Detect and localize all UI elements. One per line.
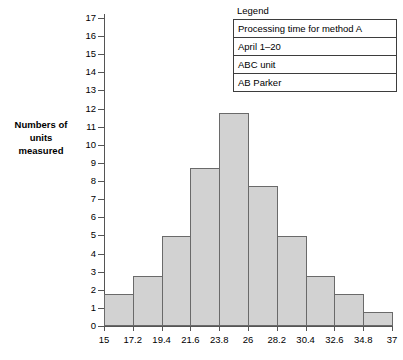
- legend-box: Processing time for method A April 1–20 …: [233, 19, 397, 92]
- y-axis-tick: [98, 199, 104, 200]
- legend-row: April 1–20: [234, 38, 396, 56]
- histogram-bar: [363, 312, 393, 326]
- y-axis-tick: [98, 36, 104, 37]
- histogram-bar: [248, 186, 278, 326]
- histogram-bar: [306, 276, 336, 326]
- y-axis-tick: [98, 254, 104, 255]
- y-axis-tick-label: 10: [76, 140, 96, 150]
- y-axis-tick: [98, 72, 104, 73]
- y-axis-line: [104, 14, 105, 327]
- x-axis-tick: [133, 326, 134, 331]
- legend-row: ABC unit: [234, 56, 396, 74]
- y-axis-tick-label: 17: [76, 13, 96, 23]
- y-axis-tick: [98, 18, 104, 19]
- y-axis-tick-label: 13: [76, 85, 96, 95]
- y-axis-tick-label: 0: [76, 321, 96, 331]
- y-axis-tick: [98, 163, 104, 164]
- y-axis-tick: [98, 145, 104, 146]
- y-axis-tick-label: 6: [76, 212, 96, 222]
- histogram-bar: [334, 294, 364, 326]
- y-axis-tick-label: 7: [76, 194, 96, 204]
- y-axis-tick-label: 2: [76, 285, 96, 295]
- histogram-bar: [162, 236, 192, 326]
- y-axis-tick-label: 3: [76, 267, 96, 277]
- y-axis-tick: [98, 290, 104, 291]
- y-axis-tick-label: 12: [76, 104, 96, 114]
- y-axis-tick-label: 8: [76, 176, 96, 186]
- y-axis-tick-label: 4: [76, 249, 96, 259]
- y-axis-tick: [98, 54, 104, 55]
- y-axis-tick: [98, 235, 104, 236]
- x-axis-tick: [104, 326, 105, 331]
- x-axis-tick: [190, 326, 191, 331]
- x-axis-tick: [306, 326, 307, 331]
- histogram-bar: [190, 168, 220, 326]
- histogram-bar: [104, 294, 134, 326]
- x-axis-tick: [277, 326, 278, 331]
- x-axis-tick: [334, 326, 335, 331]
- y-axis-title-line-2: units: [0, 131, 82, 144]
- histogram-figure: Numbers of units measured 01234567891011…: [0, 0, 403, 360]
- y-axis-tick: [98, 90, 104, 91]
- y-axis-tick: [98, 109, 104, 110]
- x-axis-tick: [392, 326, 393, 331]
- y-axis-tick-label: 5: [76, 230, 96, 240]
- legend-row: AB Parker: [234, 74, 396, 92]
- histogram-bar: [133, 276, 163, 326]
- x-axis-tick-label: 37: [372, 334, 403, 345]
- y-axis-tick: [98, 217, 104, 218]
- y-axis-tick: [98, 272, 104, 273]
- legend-row: Processing time for method A: [234, 20, 396, 38]
- y-axis-tick: [98, 127, 104, 128]
- legend: Legend Processing time for method A Apri…: [233, 5, 397, 92]
- x-axis-tick: [162, 326, 163, 331]
- y-axis-tick-label: 15: [76, 49, 96, 59]
- x-axis-tick: [363, 326, 364, 331]
- y-axis-title-line-1: Numbers of: [0, 118, 82, 131]
- x-axis-tick: [219, 326, 220, 331]
- y-axis-tick-label: 16: [76, 31, 96, 41]
- legend-title: Legend: [233, 5, 397, 19]
- y-axis-tick-label: 9: [76, 158, 96, 168]
- y-axis-title: Numbers of units measured: [0, 118, 82, 157]
- histogram-bar: [277, 236, 307, 326]
- y-axis-tick-label: 11: [76, 122, 96, 132]
- x-axis-tick: [248, 326, 249, 331]
- y-axis-tick-label: 1: [76, 303, 96, 313]
- histogram-bar: [219, 113, 249, 326]
- y-axis-tick-label: 14: [76, 67, 96, 77]
- y-axis-title-line-3: measured: [0, 144, 82, 157]
- y-axis-tick: [98, 181, 104, 182]
